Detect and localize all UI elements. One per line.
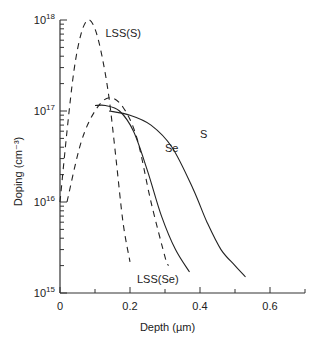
x-tick-label: 0.6 bbox=[262, 300, 277, 312]
y-tick-label: 1016 bbox=[34, 194, 56, 208]
x-tick-label: 0.4 bbox=[192, 300, 207, 312]
y-tick-label: 1018 bbox=[34, 12, 56, 26]
labels: LSS(S)SeSLSS(Se) bbox=[106, 27, 208, 285]
annotation-label: S bbox=[200, 128, 207, 140]
series-se bbox=[95, 105, 190, 272]
x-axis-label: Depth (µm) bbox=[140, 321, 195, 333]
y-axis-label: Doping (cm⁻³) bbox=[12, 137, 24, 207]
annotation-label: LSS(Se) bbox=[137, 273, 179, 285]
y-tick-label: 1017 bbox=[34, 103, 56, 117]
series-lss-s bbox=[60, 20, 130, 262]
x-tick-label: 0 bbox=[57, 300, 63, 312]
annotation-label: LSS(S) bbox=[106, 27, 141, 39]
axes: 00.20.40.61015101610171018Depth (µm)Dopi… bbox=[12, 12, 305, 333]
y-tick-label: 1015 bbox=[34, 285, 56, 299]
curves bbox=[60, 20, 246, 277]
series-lss-se bbox=[67, 98, 169, 266]
doping-depth-chart: 00.20.40.61015101610171018Depth (µm)Dopi… bbox=[0, 0, 318, 339]
x-tick-label: 0.2 bbox=[122, 300, 137, 312]
annotation-label: Se bbox=[165, 142, 178, 154]
